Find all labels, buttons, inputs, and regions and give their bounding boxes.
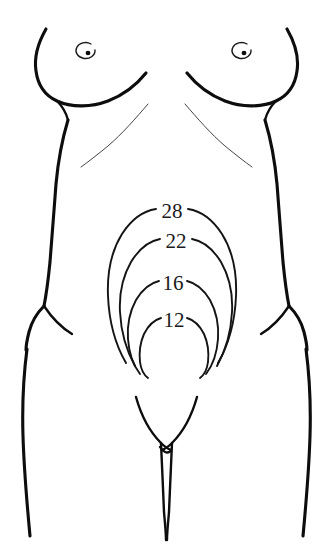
fundal-height-illustration: 28 22 16 12 <box>0 0 333 544</box>
fundal-label-22: 22 <box>166 229 187 253</box>
left-nipple-icon <box>86 51 91 55</box>
fundal-label-12: 12 <box>164 308 185 332</box>
left-groin-crease <box>44 306 72 334</box>
fundal-arc-16-right <box>187 281 218 374</box>
right-torso-side <box>265 120 289 306</box>
fundal-label-28: 28 <box>162 199 183 223</box>
right-areola-icon <box>232 43 251 59</box>
left-breast-outline <box>35 29 146 106</box>
left-areola-icon <box>76 43 95 59</box>
right-groin-crease <box>261 306 289 334</box>
inner-thigh-gap-left <box>161 443 166 540</box>
fundal-arc-12-right <box>187 318 208 378</box>
fundal-label-16: 16 <box>163 271 184 295</box>
left-torso-side <box>44 120 68 306</box>
right-hip <box>289 306 307 350</box>
right-rib-crease <box>185 104 252 167</box>
right-thigh <box>303 349 310 536</box>
right-mons-contour <box>162 397 197 450</box>
right-nipple-icon <box>242 51 247 55</box>
left-mons-contour <box>136 397 171 450</box>
left-rib-crease <box>81 104 148 167</box>
fundal-arc-12-left <box>140 318 161 378</box>
left-thigh <box>23 349 30 536</box>
left-hip <box>26 306 44 350</box>
right-breast-outline <box>187 29 298 106</box>
fundal-arc-28-right <box>188 209 236 363</box>
fundal-arc-16-left <box>128 281 159 374</box>
inner-thigh-gap-right <box>167 443 172 540</box>
torso-diagram-svg: 28 22 16 12 <box>0 0 333 544</box>
